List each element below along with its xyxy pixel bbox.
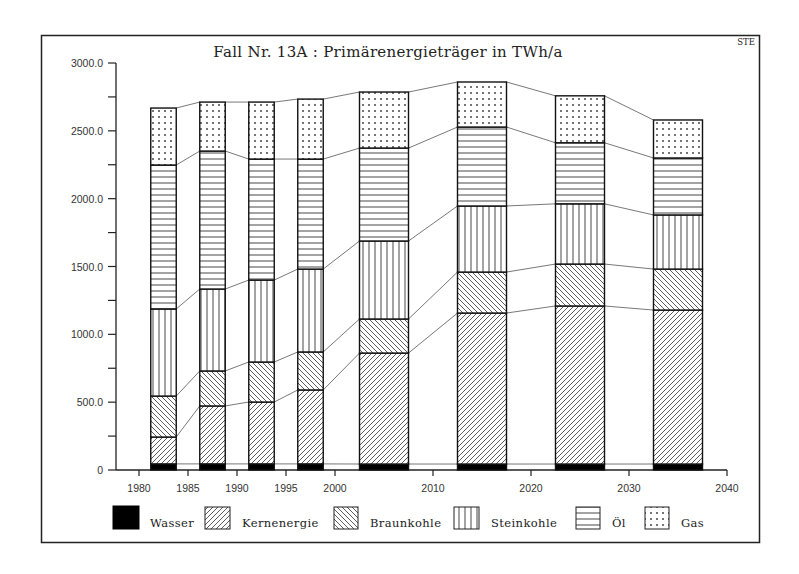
x-tick-label: 2030: [617, 482, 641, 494]
corner-label: STE: [737, 37, 755, 47]
bar-segment-braunkohle: [556, 264, 605, 306]
bar-segment-wasser: [654, 464, 703, 470]
bar-2025: [556, 96, 605, 470]
bar-segment-braunkohle: [458, 272, 507, 313]
bar-segment-wasser: [151, 464, 176, 470]
bar-segment-kernenergie: [556, 306, 605, 464]
bar-segment-steinkohle: [298, 269, 323, 352]
bar-segment-wasser: [298, 464, 323, 470]
legend-label-oel: Öl: [612, 516, 626, 530]
bar-segment-öl: [458, 127, 507, 206]
bar-segment-wasser: [458, 464, 507, 470]
bar-segment-kernenergie: [360, 353, 409, 464]
legend-swatch-oel: [576, 507, 600, 529]
bar-segment-steinkohle: [200, 289, 225, 371]
bar-segment-gas: [249, 102, 274, 159]
bar-segment-wasser: [360, 464, 409, 470]
bar-segment-gas: [360, 92, 409, 148]
bar-segment-kernenergie: [200, 406, 225, 464]
chart-container: Fall Nr. 13A : Primärenergieträger in TW…: [0, 0, 799, 574]
bar-segment-wasser: [249, 464, 274, 470]
bar-segment-gas: [151, 108, 176, 165]
bar-segment-kernenergie: [298, 390, 323, 464]
bar-segment-steinkohle: [654, 215, 703, 269]
x-tick-label: 2000: [323, 482, 347, 494]
bar-segment-steinkohle: [556, 204, 605, 264]
x-tick-label: 2020: [519, 482, 543, 494]
bar-segment-gas: [458, 82, 507, 127]
bar-segment-braunkohle: [151, 396, 176, 437]
bar-segment-öl: [556, 143, 605, 204]
chart-title: Fall Nr. 13A : Primärenergieträger in TW…: [213, 43, 562, 61]
bar-segment-kernenergie: [458, 313, 507, 464]
bar-segment-kernenergie: [249, 402, 274, 464]
bar-segment-wasser: [556, 464, 605, 470]
y-tick-label: 1500.0: [71, 261, 103, 273]
x-tick-label: 1980: [127, 482, 151, 494]
y-tick-label: 1000.0: [71, 328, 103, 340]
y-tick-label: 2000.0: [71, 193, 103, 205]
bar-segment-braunkohle: [200, 371, 225, 406]
legend-label-braunkohle: Braunkohle: [370, 516, 441, 530]
bar-segment-gas: [556, 96, 605, 143]
legend-swatch-kernenergie: [205, 507, 230, 529]
bar-segment-öl: [360, 148, 409, 241]
legend-swatch-wasser: [113, 506, 139, 529]
legend-label-steinkohle: Steinkohle: [491, 516, 557, 530]
bar-segment-braunkohle: [654, 269, 703, 310]
y-tick-label: 500.0: [77, 396, 103, 408]
x-tick-label: 1995: [274, 482, 298, 494]
bar-segment-öl: [249, 159, 274, 280]
bar-segment-kernenergie: [151, 437, 176, 464]
legend-swatch-steinkohle: [454, 507, 479, 529]
bar-1987.5: [200, 102, 225, 470]
bar-segment-braunkohle: [249, 362, 274, 402]
bar-segment-braunkohle: [298, 352, 323, 390]
bar-segment-gas: [654, 120, 703, 158]
y-tick-label: 0: [97, 464, 103, 476]
legend-label-kernenergie: Kernenergie: [242, 516, 319, 530]
bar-segment-steinkohle: [360, 241, 409, 319]
bar-segment-steinkohle: [458, 206, 507, 272]
bar-2005: [360, 92, 409, 470]
y-tick-label: 3000.0: [71, 57, 103, 69]
bar-segment-steinkohle: [151, 309, 176, 396]
y-tick-label: 2500.0: [71, 125, 103, 137]
legend-swatch-gas: [645, 507, 669, 529]
bar-segment-gas: [298, 99, 323, 159]
legend-label-wasser: Wasser: [150, 516, 194, 530]
bar-2035: [654, 120, 703, 470]
bar-segment-öl: [654, 158, 703, 215]
bar-segment-gas: [200, 102, 225, 151]
bar-segment-kernenergie: [654, 310, 703, 464]
bar-segment-öl: [200, 151, 225, 289]
x-tick-label: 1985: [176, 482, 200, 494]
legend-swatch-braunkohle: [334, 507, 358, 529]
x-tick-label: 1990: [225, 482, 249, 494]
x-tick-label: 2010: [421, 482, 445, 494]
bar-1982.5: [151, 108, 176, 470]
stacked-bar-chart: Fall Nr. 13A : Primärenergieträger in TW…: [0, 0, 799, 574]
bar-segment-steinkohle: [249, 280, 274, 362]
x-tick-label: 2040: [715, 482, 739, 494]
legend-label-gas: Gas: [681, 516, 704, 530]
bar-1997.5: [298, 99, 323, 470]
bar-segment-wasser: [200, 464, 225, 470]
bar-2015: [458, 82, 507, 470]
bar-segment-öl: [298, 159, 323, 269]
bar-segment-braunkohle: [360, 319, 409, 353]
bar-1992.5: [249, 102, 274, 470]
bar-segment-öl: [151, 165, 176, 309]
